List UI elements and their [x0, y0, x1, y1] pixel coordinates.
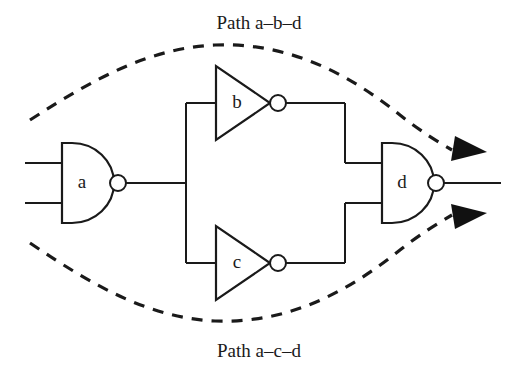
gate-a-output-bubble: [110, 175, 126, 191]
inverter-c-body: [216, 226, 270, 300]
inverter-b-label: b: [232, 91, 242, 112]
gate-d-label: d: [397, 171, 407, 192]
path-a-b-d-label: Path a–b–d: [217, 12, 302, 33]
inverter-b-output-bubble: [270, 95, 286, 111]
inverter-c-label: c: [233, 251, 241, 272]
gate-d-body: [382, 143, 434, 223]
gate-d-output-bubble: [428, 175, 444, 191]
gate-a-body: [62, 143, 114, 223]
path-a-b-d-arrowhead: [451, 136, 487, 161]
inverter-b-body: [216, 66, 270, 140]
gate-a-label: a: [78, 171, 87, 192]
inverter-c-output-bubble: [270, 255, 286, 271]
logic-circuit-diagram: a b c d Path a–b–d Path a–c–d: [0, 0, 519, 372]
path-a-c-d-arrowhead: [451, 204, 487, 229]
circuit-canvas: a b c d Path a–b–d Path a–c–d: [0, 0, 519, 372]
path-a-c-d-label: Path a–c–d: [217, 340, 301, 361]
